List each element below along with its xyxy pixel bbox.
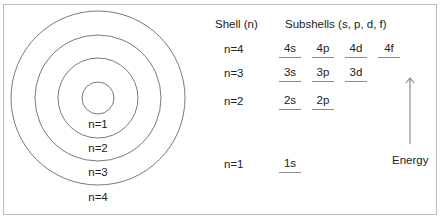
subshells-header: Subshells (s, p, d, f): [285, 18, 387, 30]
subshell-4s: 4s: [279, 42, 301, 58]
shell-header: Shell (n): [215, 18, 258, 30]
subshell-4f: 4f: [378, 42, 400, 58]
circle-label-n1: n=1: [88, 118, 108, 130]
subshell-2s: 2s: [279, 94, 301, 110]
shell-circle-n1: [82, 82, 114, 114]
energy-arrow-icon: [403, 76, 417, 148]
circle-label-n2: n=2: [88, 142, 108, 154]
shell-circles: [0, 0, 220, 221]
circle-label-n3: n=3: [88, 166, 108, 178]
shell-label-n1: n=1: [224, 158, 244, 170]
subshell-3d: 3d: [345, 66, 367, 82]
shell-label-n2: n=2: [224, 95, 244, 107]
circle-label-n4: n=4: [88, 191, 108, 203]
subshell-1s: 1s: [279, 157, 301, 173]
subshell-3p: 3p: [312, 66, 334, 82]
subshell-4d: 4d: [345, 42, 367, 58]
subshell-2p: 2p: [312, 94, 334, 110]
shell-label-n3: n=3: [224, 67, 244, 79]
energy-label: Energy: [392, 154, 428, 166]
subshell-4p: 4p: [312, 42, 334, 58]
shell-circle-n4: [11, 11, 185, 185]
shell-label-n4: n=4: [224, 43, 244, 55]
subshell-3s: 3s: [279, 66, 301, 82]
